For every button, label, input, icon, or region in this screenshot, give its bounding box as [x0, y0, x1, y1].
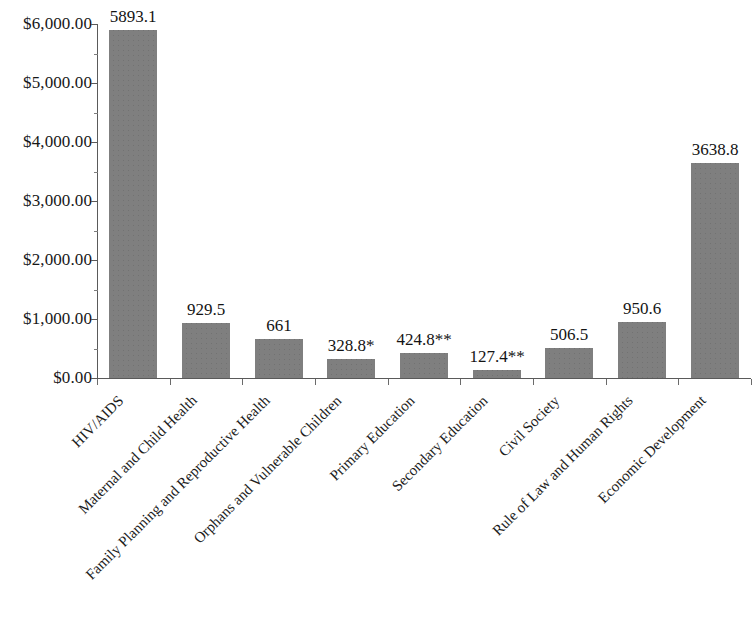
x-axis-category-label: Orphans and Vulnerable Children: [191, 393, 345, 547]
x-axis-category-label: Civil Society: [495, 393, 562, 460]
x-axis-category-label: Rule of Law and Human Rights: [489, 392, 636, 539]
x-axis-category-labels: HIV/AIDSMaternal and Child HealthFamily …: [0, 0, 753, 635]
bar-chart: $0.00$1,000.00$2,000.00$3,000.00$4,000.0…: [0, 0, 753, 635]
x-axis-category-label: Maternal and Child Health: [75, 392, 200, 517]
x-axis-category-label: HIV/AIDS: [69, 392, 127, 450]
